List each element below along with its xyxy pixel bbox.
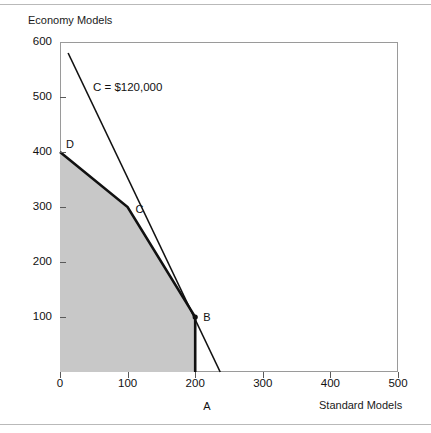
- x-tick-label-300: 300: [233, 377, 293, 389]
- feasible-region-shape: [60, 152, 195, 372]
- x-tick-label-500: 500: [368, 377, 428, 389]
- y-tick-500: [60, 97, 66, 98]
- point-label-c: C: [136, 203, 144, 215]
- x-tick-label-0: 0: [30, 377, 90, 389]
- x-tick-label-100: 100: [98, 377, 158, 389]
- point-label-a: A: [203, 400, 210, 412]
- y-tick-label-500: 500: [8, 90, 52, 102]
- point-label-b: B: [203, 311, 210, 323]
- y-tick-label-600: 600: [8, 35, 52, 47]
- iso-cost-line-label: C = $120,000: [93, 81, 162, 93]
- vertex-marker-b: [193, 314, 198, 319]
- y-tick-label-400: 400: [8, 145, 52, 157]
- figure-frame: Economy Models Standard Models 010020030…: [0, 0, 431, 433]
- y-tick-label-200: 200: [8, 255, 52, 267]
- point-label-d: D: [66, 138, 74, 150]
- y-tick-label-300: 300: [8, 200, 52, 212]
- y-tick-200: [60, 262, 66, 263]
- y-tick-100: [60, 317, 66, 318]
- chart-canvas: [0, 0, 431, 433]
- y-tick-400: [60, 152, 66, 153]
- y-tick-label-100: 100: [8, 310, 52, 322]
- x-tick-label-200: 200: [165, 377, 225, 389]
- x-tick-label-400: 400: [300, 377, 360, 389]
- y-tick-300: [60, 207, 66, 208]
